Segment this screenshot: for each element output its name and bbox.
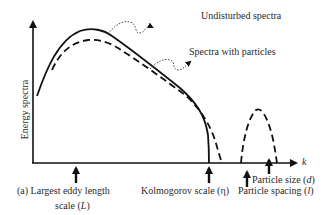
particle-spacing-suffix: ) — [310, 185, 313, 196]
particle-spacing-prefix: Particle spacing ( — [238, 185, 307, 196]
largest-eddy-line1: Largest eddy length — [31, 185, 110, 196]
particle-size-label: Particle size (d) — [252, 174, 315, 186]
largest-eddy-label: (a) Largest eddy length — [17, 185, 110, 197]
x-axis-label: k — [302, 156, 306, 168]
kolmogorov-label: Kolmogorov scale (η) — [141, 185, 229, 197]
particle-spectrum-curve — [52, 40, 222, 163]
undisturbed-pointer-icon — [108, 22, 152, 34]
undisturbed-label: Undisturbed spectra — [201, 10, 281, 22]
particles-label: Spectra with particles — [189, 46, 276, 58]
particle-bump-curve — [241, 109, 277, 163]
undisturbed-spectrum-curve — [37, 29, 209, 163]
panel-label: (a) — [17, 185, 28, 196]
largest-eddy-scale-suffix: ) — [86, 200, 89, 211]
particle-spacing-label: Particle spacing (l) — [238, 185, 314, 197]
largest-eddy-scale-prefix: scale ( — [55, 200, 81, 211]
largest-eddy-label-line2: scale (L) — [55, 200, 90, 212]
y-axis-label: Energy spectra — [19, 70, 30, 150]
particle-size-suffix: ) — [311, 174, 314, 185]
particle-size-prefix: Particle size ( — [252, 174, 306, 185]
